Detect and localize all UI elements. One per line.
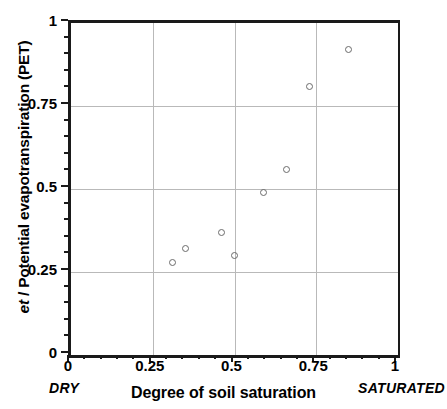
data-points-layer xyxy=(71,23,398,355)
y-axis-minor-tick xyxy=(64,152,68,154)
y-axis-minor-tick xyxy=(64,135,68,137)
x-axis-tick-label: 0 xyxy=(64,358,72,373)
gridline-vertical xyxy=(153,23,154,355)
y-axis-minor-tick xyxy=(64,285,68,287)
y-axis-major-tick xyxy=(61,19,68,21)
gridline-vertical xyxy=(316,23,317,355)
data-point xyxy=(231,252,238,259)
gridlines xyxy=(71,23,398,355)
gridline-vertical xyxy=(235,23,236,355)
y-axis-minor-tick xyxy=(64,235,68,237)
y-axis-minor-tick xyxy=(64,168,68,170)
dry-annotation: DRY xyxy=(49,380,79,396)
y-axis-tick-label: 1 xyxy=(49,13,57,28)
y-axis-minor-tick xyxy=(64,36,68,38)
y-axis-major-tick xyxy=(61,102,68,104)
plot-area xyxy=(68,20,400,358)
y-axis-minor-tick xyxy=(64,85,68,87)
y-axis-minor-tick xyxy=(64,251,68,253)
y-axis-major-tick xyxy=(61,268,68,270)
x-axis-tick-labels: 00.250.50.751 xyxy=(0,358,447,378)
y-axis-minor-tick xyxy=(64,334,68,336)
y-axis-minor-tick xyxy=(64,69,68,71)
y-axis-minor-tick xyxy=(64,119,68,121)
y-axis-minor-tick xyxy=(64,301,68,303)
gridline-horizontal xyxy=(71,189,398,190)
x-axis-tick-label: 0.75 xyxy=(299,358,328,373)
y-axis-title-italic: et xyxy=(15,300,32,313)
x-axis-tick-label: 0.5 xyxy=(221,358,242,373)
y-axis-major-tick xyxy=(61,185,68,187)
y-axis-minor-tick xyxy=(64,52,68,54)
y-axis-major-tick xyxy=(61,351,68,353)
data-point xyxy=(260,189,267,196)
x-axis-tick-label: 1 xyxy=(391,358,399,373)
y-axis-minor-tick xyxy=(64,202,68,204)
data-point xyxy=(283,166,290,173)
data-point xyxy=(345,46,352,53)
x-axis-tick-label: 0.25 xyxy=(135,358,164,373)
y-axis-title: et / Potential evapotranspiration (PET) xyxy=(15,17,33,337)
y-axis-minor-tick xyxy=(64,318,68,320)
data-point xyxy=(169,259,176,266)
y-axis-tick-label: 0.5 xyxy=(36,179,57,194)
data-point xyxy=(306,83,313,90)
chart-figure: 00.250.50.751 00.250.50.751 et / Potenti… xyxy=(0,0,447,409)
y-axis-minor-tick xyxy=(64,218,68,220)
gridline-horizontal xyxy=(71,106,398,107)
data-point xyxy=(218,229,225,236)
data-point xyxy=(182,245,189,252)
saturated-annotation: SATURATED xyxy=(358,380,445,396)
gridline-horizontal xyxy=(71,272,398,273)
y-axis-title-rest: / Potential evapotranspiration (PET) xyxy=(15,41,32,301)
